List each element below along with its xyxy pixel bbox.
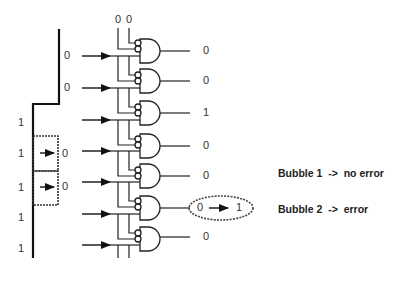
bubble-boxes <box>33 136 58 205</box>
output-label-4: 0 <box>203 170 209 181</box>
circuit-diagram <box>0 0 420 281</box>
and-gate-3 <box>135 134 160 158</box>
note-bubble-2: Bubble 2 -> error <box>278 203 368 215</box>
bubble-value-2: 0 <box>62 181 68 192</box>
output-label-0: 0 <box>203 45 209 56</box>
note-bubble-1: Bubble 1 -> no error <box>278 167 384 179</box>
top-input-label-1: 0 <box>126 14 132 25</box>
input-arrows <box>82 56 110 245</box>
bubble-value-1: 0 <box>62 148 68 159</box>
and-gate-2 <box>135 101 160 125</box>
left-value-5: 1 <box>18 243 24 254</box>
output-label-1: 0 <box>203 75 209 86</box>
and-gate-4 <box>135 164 160 188</box>
left-value-2: 1 <box>18 148 24 159</box>
top-input-label-0: 0 <box>115 14 121 25</box>
output-label-6: 0 <box>203 231 209 242</box>
output-label-2: 1 <box>203 107 209 118</box>
bubble-arrows <box>40 153 54 187</box>
input-label-1: 0 <box>64 82 70 93</box>
and-gate-6 <box>135 227 160 251</box>
left-value-1: 1 <box>18 117 24 128</box>
and-gate-0 <box>135 39 160 63</box>
thermometer-step-line <box>33 29 59 258</box>
and-gate-1 <box>135 69 160 93</box>
and-gate-5 <box>135 196 160 220</box>
highlight-from-label: 0 <box>197 202 203 213</box>
output-label-3: 0 <box>203 140 209 151</box>
and-gates <box>135 39 160 251</box>
input-label-0: 0 <box>64 50 70 61</box>
left-value-4: 1 <box>18 212 24 223</box>
highlight-to-label: 1 <box>236 202 242 213</box>
left-value-3: 1 <box>18 182 24 193</box>
